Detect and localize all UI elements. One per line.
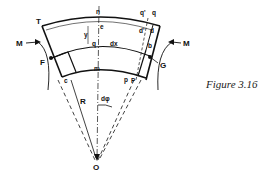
dphi-arc <box>98 105 112 107</box>
radius-left <box>71 80 96 158</box>
label-y: y <box>84 31 88 39</box>
label-m: m <box>94 65 100 72</box>
label-b: b <box>148 42 152 49</box>
label-q-prime: q' <box>140 9 146 17</box>
label-dphi: dφ <box>101 95 110 103</box>
label-F: F <box>40 58 45 67</box>
label-M-left: M <box>16 39 23 48</box>
label-n: n <box>96 8 100 15</box>
label-p: p <box>124 76 128 84</box>
label-c: c <box>64 77 68 84</box>
label-e: e <box>100 23 104 30</box>
label-O: O <box>93 163 99 172</box>
label-T: T <box>36 17 41 26</box>
centre-line <box>97 6 99 160</box>
radius-left-outer <box>58 80 95 160</box>
label-M-right: M <box>183 39 190 48</box>
radius-right-1 <box>98 80 134 160</box>
point-F <box>49 56 53 60</box>
figure-caption: Figure 3.16 <box>206 78 258 90</box>
radius-right-2 <box>99 80 141 160</box>
label-q-top: q <box>152 9 156 17</box>
label-q-mid: q <box>92 40 96 48</box>
label-dx: dx <box>110 40 118 47</box>
label-R: R <box>80 97 86 106</box>
label-G: G <box>160 61 166 70</box>
label-d-prime: d' <box>139 27 145 34</box>
label-P: P <box>131 77 136 84</box>
label-d: d <box>150 27 154 34</box>
